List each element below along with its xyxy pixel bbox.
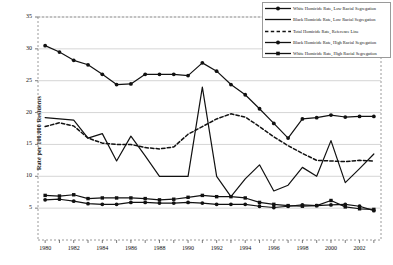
data-point-marker xyxy=(158,201,162,205)
y-axis-title: Rate per 100,000 Residents xyxy=(35,96,42,170)
data-point-marker xyxy=(186,74,190,78)
chart-legend: White Homicide Rate, Low Racial Segregat… xyxy=(262,2,391,58)
data-point-marker xyxy=(72,199,76,203)
data-point-marker xyxy=(129,82,133,86)
legend-item[interactable]: Total Homicide Rate, Reference Line xyxy=(263,26,390,37)
x-tick-label: 2002 xyxy=(347,245,373,251)
data-point-marker xyxy=(372,114,376,118)
data-point-marker xyxy=(243,202,247,206)
data-point-marker xyxy=(86,197,89,200)
data-point-marker xyxy=(172,201,176,205)
chart-figure: Rate per 100,000 Residents 5101520253035… xyxy=(0,0,393,265)
x-tick-label: 1998 xyxy=(289,245,315,251)
line-plain-icon xyxy=(263,14,293,25)
data-point-marker xyxy=(272,203,275,206)
data-point-marker xyxy=(115,83,119,87)
data-point-marker xyxy=(343,115,347,119)
data-point-marker xyxy=(43,198,47,202)
data-point-marker xyxy=(243,93,247,97)
legend-item[interactable]: White Homicide Rate, Low Racial Segregat… xyxy=(263,3,390,14)
legend-item-label: White Homicide Rate, Low Racial Segregat… xyxy=(293,3,376,14)
legend-item[interactable]: Black Homicide Rate, Low Racial Segregat… xyxy=(263,14,390,25)
data-point-marker xyxy=(301,205,304,208)
data-point-marker xyxy=(186,201,190,205)
data-point-marker xyxy=(43,44,47,48)
data-point-marker xyxy=(372,208,375,211)
data-point-marker xyxy=(215,202,219,206)
line-circle-marker-icon xyxy=(263,3,293,14)
data-point-marker xyxy=(143,197,146,200)
x-tick-label: 1990 xyxy=(175,245,201,251)
y-tick-label: 30 xyxy=(16,45,32,51)
y-tick-label: 15 xyxy=(16,140,32,146)
x-tick-label: 1980 xyxy=(32,245,58,251)
legend-item-label: Black Homicide Rate, Low Racial Segregat… xyxy=(293,14,375,25)
series-line xyxy=(45,195,374,210)
data-point-marker xyxy=(172,198,175,201)
x-tick-label: 1994 xyxy=(232,245,258,251)
data-point-marker xyxy=(115,202,119,206)
data-point-marker xyxy=(315,116,319,120)
data-point-marker xyxy=(229,202,233,206)
data-point-marker xyxy=(286,136,290,140)
data-point-marker xyxy=(101,196,104,199)
data-point-marker xyxy=(344,205,347,208)
y-tick-label: 5 xyxy=(16,204,32,210)
data-point-marker xyxy=(258,201,261,204)
data-point-marker xyxy=(115,196,118,199)
series-line xyxy=(45,114,374,162)
data-point-marker xyxy=(143,72,147,76)
x-tick-label: 1984 xyxy=(89,245,115,251)
data-point-marker xyxy=(358,207,361,210)
x-tick-label: 1988 xyxy=(146,245,172,251)
data-point-marker xyxy=(158,198,161,201)
data-point-marker xyxy=(200,201,204,205)
data-point-marker xyxy=(215,69,219,73)
data-point-marker xyxy=(315,204,318,207)
data-point-marker xyxy=(329,113,333,117)
data-point-marker xyxy=(129,201,133,205)
x-tick-label: 1986 xyxy=(118,245,144,251)
data-point-marker xyxy=(58,194,61,197)
y-tick-label: 20 xyxy=(16,109,32,115)
data-point-marker xyxy=(300,117,304,121)
line-square-marker-icon xyxy=(263,48,293,59)
series-line xyxy=(45,199,374,210)
legend-item-label: White Homicide Rate, High Racial Segrega… xyxy=(293,48,377,59)
data-point-marker xyxy=(100,202,104,206)
data-point-marker xyxy=(158,72,162,76)
data-point-marker xyxy=(244,196,247,199)
data-point-marker xyxy=(129,196,132,199)
series-line xyxy=(45,87,374,197)
data-point-marker xyxy=(100,72,104,76)
y-tick-label: 25 xyxy=(16,77,32,83)
legend-item[interactable]: White Homicide Rate, High Racial Segrega… xyxy=(263,48,390,59)
data-series-layer xyxy=(43,44,376,213)
legend-item-label: Total Homicide Rate, Reference Line xyxy=(293,26,359,37)
y-tick-label: 35 xyxy=(16,13,32,19)
legend-item[interactable]: Black Homicide Rate, High Racial Segrega… xyxy=(263,37,390,48)
data-point-marker xyxy=(201,194,204,197)
data-point-marker xyxy=(272,206,276,210)
data-point-marker xyxy=(358,114,362,118)
data-point-marker xyxy=(43,194,46,197)
data-point-marker xyxy=(329,203,333,207)
data-point-marker xyxy=(258,107,262,111)
data-point-marker xyxy=(200,61,204,65)
data-point-marker xyxy=(58,50,62,54)
x-tick-label: 1992 xyxy=(204,245,230,251)
data-point-marker xyxy=(229,83,233,87)
data-point-marker xyxy=(186,196,189,199)
x-tick-label: 1996 xyxy=(261,245,287,251)
data-point-marker xyxy=(272,122,276,126)
y-tick-label: 10 xyxy=(16,172,32,178)
data-point-marker xyxy=(86,63,90,67)
x-tick-label: 2000 xyxy=(318,245,344,251)
data-point-marker xyxy=(258,204,262,208)
legend-item-label: Black Homicide Rate, High Racial Segrega… xyxy=(293,37,376,48)
data-point-marker xyxy=(329,199,332,202)
series-line xyxy=(45,46,374,138)
data-point-marker xyxy=(229,195,232,198)
data-point-marker xyxy=(72,193,75,196)
line-circle-marker-icon xyxy=(263,37,293,48)
